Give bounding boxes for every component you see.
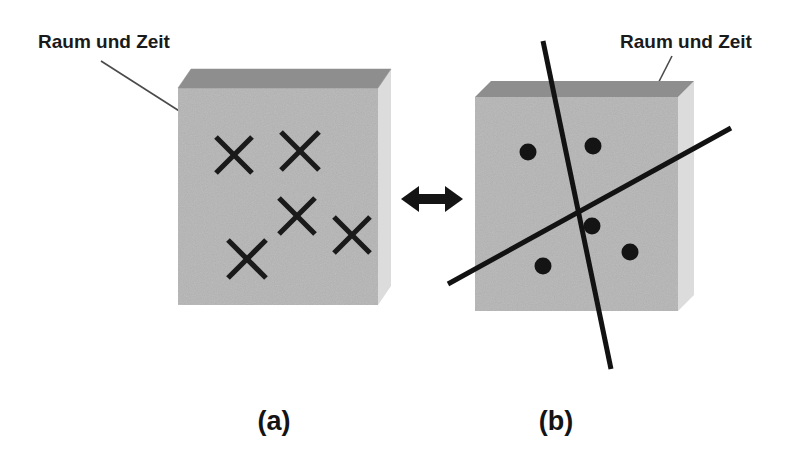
event-marker-dot: [520, 144, 537, 161]
arrow-shaft: [414, 194, 450, 204]
event-marker-dot: [622, 244, 639, 261]
panel-a-slab-front-face: [178, 88, 378, 305]
panel-b-annotation-label: Raum und Zeit: [620, 31, 753, 52]
panel-a-slab-side-face: [378, 69, 391, 305]
panel-b-slab: [475, 81, 694, 311]
panel-a-slab-top-face: [178, 69, 391, 88]
event-marker-dot: [535, 258, 552, 275]
panel-a-annotation-label: Raum und Zeit: [38, 31, 171, 52]
event-marker-dot: [584, 218, 601, 235]
panel-b-slab-top-face: [475, 81, 694, 97]
panel-b-caption: (b): [539, 406, 573, 436]
event-marker-dot: [585, 138, 602, 155]
panel-a-slab: [178, 69, 391, 305]
panel-a-caption: (a): [258, 406, 291, 436]
panel-b-slab-side-face: [678, 81, 694, 311]
space-time-figure: Raum und Zeit: [0, 0, 797, 467]
